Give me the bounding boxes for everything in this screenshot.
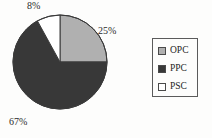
pie-label-ppc: 67% xyxy=(9,117,27,127)
legend-label-ppc: PPC xyxy=(170,64,187,74)
legend-swatch-psc xyxy=(158,83,166,91)
pie-chart-svg xyxy=(12,14,108,110)
pie-chart-figure: 8% 25% 67% OPC PPC PSC xyxy=(0,0,212,138)
legend-item-opc: OPC xyxy=(158,46,188,56)
legend-item-psc: PSC xyxy=(158,82,187,92)
pie-label-opc: 25% xyxy=(98,26,116,36)
pie-chart xyxy=(12,14,108,110)
legend-label-opc: OPC xyxy=(170,46,188,56)
legend-label-psc: PSC xyxy=(170,82,187,92)
legend-swatch-opc xyxy=(158,47,166,55)
legend-item-ppc: PPC xyxy=(158,64,187,74)
pie-slice-opc xyxy=(60,15,107,62)
pie-label-psc: 8% xyxy=(27,1,40,11)
chart-legend: OPC PPC PSC xyxy=(152,38,198,97)
legend-swatch-ppc xyxy=(158,65,166,73)
